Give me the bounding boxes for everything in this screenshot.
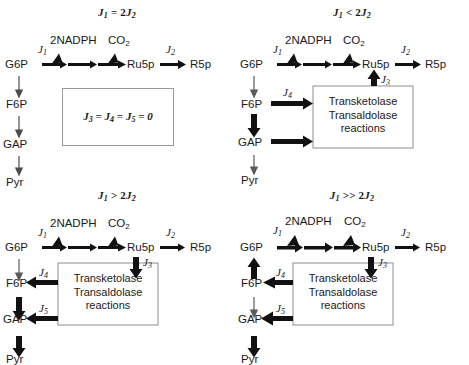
- flux-label-j5-panel4: J5: [276, 303, 285, 317]
- node-ru5p-panel1: Ru5p: [127, 58, 155, 70]
- flux-label-j4-panel2: J4: [283, 87, 292, 101]
- flux-label-j1-panel3: J1: [38, 227, 47, 241]
- node-f6p-panel4: F6P: [241, 277, 262, 289]
- panel-title-j1-equals-2j2: J1 = 2J2: [0, 6, 234, 20]
- node-g6p-panel3: G6P: [5, 241, 28, 253]
- cofactor-label-nadph-panel1: 2NADPH: [50, 34, 97, 46]
- flux-label-j2-panel1: J2: [166, 44, 175, 58]
- cofactor-label-nadph-panel3: 2NADPH: [50, 217, 97, 229]
- enzyme-box-label-panel4: Transketolase Transaldolase reactions: [293, 272, 393, 313]
- node-r5p-panel2: R5p: [425, 58, 446, 70]
- panel-title-j1-muchgreater-2j2: J1 >> 2J2: [235, 189, 469, 203]
- enzyme-line-transketolase: Transketolase: [293, 272, 393, 286]
- panel-j1-muchgreater-2j2: J1 >> 2J2: [235, 183, 469, 365]
- node-ru5p-panel4: Ru5p: [362, 241, 390, 253]
- zero-flux-box: J3 = J4 = J5 = 0: [62, 88, 174, 146]
- enzyme-line-reactions: reactions: [293, 299, 393, 313]
- node-gap-panel3: GAP: [3, 313, 27, 325]
- flux-label-j3-panel2: J3: [381, 74, 390, 88]
- node-gap-panel4: GAP: [238, 313, 262, 325]
- enzyme-line-transketolase: Transketolase: [313, 95, 413, 109]
- flux-label-j2-panel4: J2: [401, 227, 410, 241]
- flux-label-j1-panel2: J1: [273, 44, 282, 58]
- node-pyr-panel3: Pyr: [6, 353, 23, 365]
- flux-label-j5-panel3: J5: [39, 303, 48, 317]
- node-g6p-panel1: G6P: [5, 58, 28, 70]
- flux-label-j1-panel1: J1: [38, 44, 47, 58]
- node-ru5p-panel3: Ru5p: [127, 241, 155, 253]
- panel-2-arrows: [235, 0, 469, 182]
- panel-j1-equals-2j2: J1 = 2J2: [0, 0, 234, 182]
- pentose-phosphate-pathway-figure: J1 = 2J2: [0, 0, 469, 365]
- enzyme-line-transketolase: Transketolase: [58, 272, 158, 286]
- node-f6p-panel1: F6P: [6, 98, 27, 110]
- node-r5p-panel3: R5p: [190, 241, 211, 253]
- cofactor-label-co2-panel4: CO2: [344, 215, 366, 231]
- panel-title-j1-greater-2j2: J1 > 2J2: [0, 189, 234, 203]
- cofactor-label-nadph-panel2: 2NADPH: [285, 34, 332, 46]
- node-r5p-panel1: R5p: [190, 58, 211, 70]
- flux-label-j3-panel4: J3: [378, 257, 387, 271]
- flux-label-j3-panel3: J3: [143, 257, 152, 271]
- flux-label-j2-panel3: J2: [166, 227, 175, 241]
- node-pyr-panel4: Pyr: [241, 353, 258, 365]
- cofactor-label-co2-panel1: CO2: [108, 34, 130, 50]
- zero-flux-equation: J3 = J4 = J5 = 0: [83, 110, 152, 124]
- flux-label-j4-panel4: J4: [276, 267, 285, 281]
- node-g6p-panel4: G6P: [240, 241, 263, 253]
- flux-label-j1-panel4: J1: [273, 225, 282, 239]
- panel-j1-greater-2j2: J1 > 2J2: [0, 183, 234, 365]
- panel-title-j1-less-2j2: J1 < 2J2: [235, 6, 469, 20]
- node-r5p-panel4: R5p: [425, 241, 446, 253]
- panel-j1-less-2j2: J1 < 2J2: [235, 0, 469, 182]
- enzyme-line-transaldolase: Transaldolase: [58, 286, 158, 300]
- node-f6p-panel3: F6P: [6, 277, 27, 289]
- node-gap-panel1: GAP: [3, 138, 27, 150]
- enzyme-line-reactions: reactions: [58, 299, 158, 313]
- node-gap-panel2: GAP: [238, 136, 262, 148]
- node-ru5p-panel2: Ru5p: [362, 58, 390, 70]
- node-f6p-panel2: F6P: [241, 98, 262, 110]
- flux-label-j2-panel2: J2: [401, 44, 410, 58]
- node-g6p-panel2: G6P: [240, 58, 263, 70]
- enzyme-box-label-panel3: Transketolase Transaldolase reactions: [58, 272, 158, 313]
- enzyme-box-label-panel2: Transketolase Transaldolase reactions: [313, 95, 413, 136]
- flux-label-j4-panel3: J4: [39, 267, 48, 281]
- enzyme-line-transaldolase: Transaldolase: [313, 109, 413, 123]
- cofactor-label-co2-panel2: CO2: [343, 34, 365, 50]
- cofactor-label-nadph-panel4: 2NADPH: [285, 215, 332, 227]
- enzyme-line-reactions: reactions: [313, 122, 413, 136]
- cofactor-label-co2-panel3: CO2: [108, 217, 130, 233]
- enzyme-line-transaldolase: Transaldolase: [293, 286, 393, 300]
